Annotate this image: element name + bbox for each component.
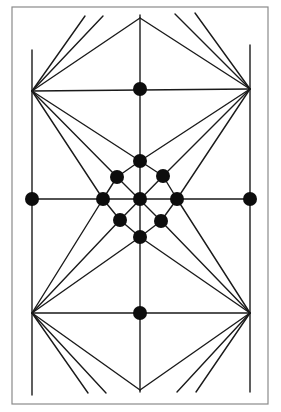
ur-to-lattice-right-line	[177, 89, 250, 199]
lr-to-lattice-bottom-line	[140, 237, 250, 313]
lower-mid-dot	[133, 306, 147, 320]
ul-fan-up-1-line	[32, 16, 85, 91]
ll-to-lattice-left-line	[32, 199, 103, 313]
top-to-upper-right-line	[140, 18, 250, 89]
ul-fan-up-2-line	[32, 16, 103, 91]
left-edge-dot	[25, 192, 39, 206]
lattice-right	[170, 192, 184, 206]
lr-fan-down-1-line	[177, 313, 250, 392]
lattice-center	[133, 192, 147, 206]
ll-to-lattice-lower-left-line	[32, 220, 120, 313]
upper-mid-dot	[133, 82, 147, 96]
ur-to-lattice-top-line	[140, 89, 250, 161]
bottom-to-lower-left-line	[32, 313, 140, 390]
bottom-to-lower-right-line	[140, 313, 250, 390]
ll-fan-down-2-line	[32, 313, 106, 393]
lr-to-lattice-lower-right-line	[161, 221, 250, 313]
lr-to-lattice-right-line	[177, 199, 250, 313]
lattice-upper-left	[110, 170, 124, 184]
ll-to-lattice-bottom-line	[32, 237, 140, 313]
lattice-upper-right	[156, 169, 170, 183]
top-to-upper-left-line	[32, 18, 140, 91]
geometric-diagram	[0, 0, 281, 412]
lattice-left	[96, 192, 110, 206]
lr-fan-down-2-line	[196, 313, 250, 392]
ul-to-lattice-upper-left-line	[32, 91, 117, 177]
ul-to-lattice-top-line	[32, 91, 140, 161]
ur-to-lattice-upper-right-line	[163, 89, 250, 176]
ur-fan-up-2-line	[195, 13, 250, 89]
ul-to-lattice-left-line	[32, 91, 103, 199]
lattice-lower-left	[113, 213, 127, 227]
lattice-top	[133, 154, 147, 168]
ur-fan-up-1-line	[175, 14, 250, 89]
lattice-bottom	[133, 230, 147, 244]
right-edge-dot	[243, 192, 257, 206]
ll-fan-down-1-line	[32, 313, 88, 393]
lattice-lower-right	[154, 214, 168, 228]
